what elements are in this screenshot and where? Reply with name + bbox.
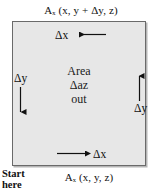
figure-root: Aₓ (x, y + Δy, z) Area Δaᴢ out Δx Δx Δy … — [0, 0, 162, 191]
start-here-line-2: here — [2, 179, 25, 190]
area-label-line-2: Δaᴢ — [12, 78, 146, 92]
delta-x-bottom-label: Δx — [93, 148, 106, 160]
field-label-bottom-text: Aₓ (x, y, z) — [65, 171, 114, 183]
field-label-bottom: Aₓ (x, y, z) — [30, 171, 148, 183]
delta-y-right-label: Δy — [134, 102, 147, 114]
delta-y-left-label: Δy — [14, 72, 27, 84]
start-here-annotation: Start here — [2, 168, 25, 190]
area-center-text: Area Δaᴢ out — [12, 64, 146, 106]
field-label-top: Aₓ (x, y + Δy, z) — [0, 4, 162, 16]
field-label-top-text: Aₓ (x, y + Δy, z) — [44, 4, 117, 16]
area-label-line-1: Area — [12, 64, 146, 78]
area-label-line-3: out — [12, 92, 146, 106]
delta-x-top-label: Δx — [55, 29, 68, 41]
start-here-line-1: Start — [2, 168, 25, 179]
